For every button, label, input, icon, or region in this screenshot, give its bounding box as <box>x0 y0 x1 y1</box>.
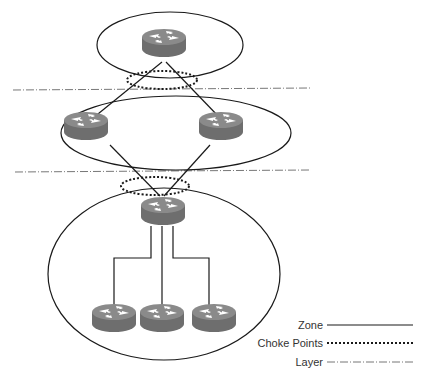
link <box>173 226 209 305</box>
choke-point-1 <box>127 71 197 89</box>
router-icon <box>140 304 184 332</box>
router-icon <box>141 197 185 225</box>
link <box>166 62 220 118</box>
router-icon <box>64 112 108 140</box>
legend-layer-label: Layer <box>295 356 323 368</box>
router-icon <box>192 304 236 332</box>
router-icon <box>92 304 136 332</box>
network-zone-diagram: Zone Choke Points Layer <box>0 0 429 387</box>
legend: Zone Choke Points Layer <box>258 319 413 368</box>
legend-choke-points-label: Choke Points <box>258 337 324 349</box>
link <box>114 226 151 305</box>
legend-zone-label: Zone <box>298 319 323 331</box>
link <box>110 145 160 196</box>
router-icon <box>142 29 186 57</box>
link <box>93 62 162 118</box>
router-icon <box>199 112 243 140</box>
